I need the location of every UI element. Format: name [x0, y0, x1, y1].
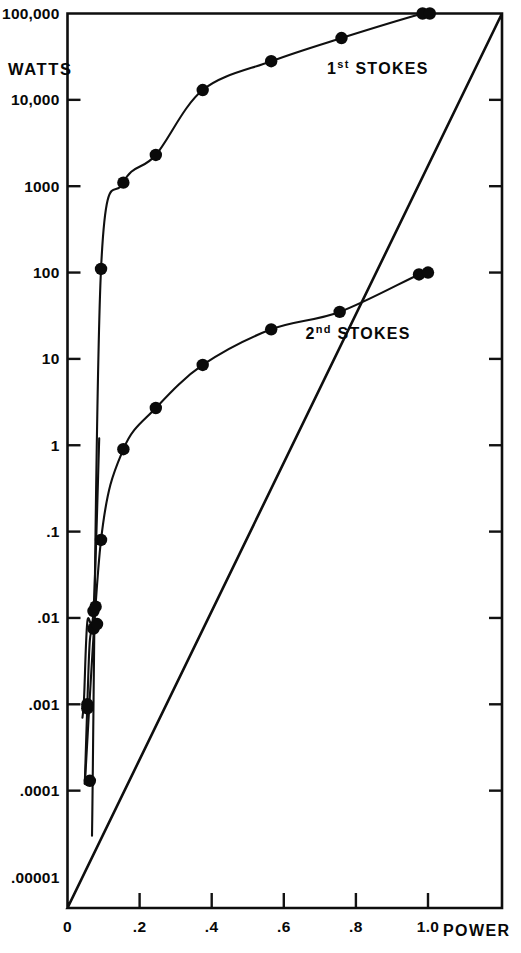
- y-tick-label: 1000: [24, 178, 59, 195]
- y-tick-label: 10,000: [11, 91, 60, 108]
- x-tick-label: .6: [277, 918, 291, 935]
- series-points: [81, 7, 436, 787]
- y-tick-label: 100: [33, 264, 59, 281]
- x-axis-name-label: POWER: [443, 922, 510, 939]
- data-point: [196, 359, 208, 371]
- y-tick-label: .00001: [11, 869, 60, 886]
- data-point: [89, 601, 101, 613]
- y-tick-label: .0001: [20, 782, 60, 799]
- x-tick-label: .8: [349, 918, 363, 935]
- series-label: 2nd STOKES: [305, 323, 410, 342]
- data-point: [196, 84, 208, 96]
- data-point: [424, 7, 436, 19]
- axis-frame-path: [68, 14, 503, 909]
- series-curve: [92, 12, 431, 836]
- data-point: [84, 775, 96, 787]
- x-axis-ticks: [140, 893, 428, 908]
- y-tick-label: .01: [37, 609, 59, 626]
- y-tick-label: 1: [51, 437, 60, 454]
- axis-frame: [68, 14, 503, 909]
- x-tick-label: 0: [63, 918, 72, 935]
- y-tick-label: .001: [29, 696, 60, 713]
- data-point: [91, 618, 103, 630]
- x-tick-label: .4: [205, 918, 219, 935]
- chart-canvas: .00001.0001.001.01.1110100100010,000100,…: [0, 0, 521, 953]
- data-point: [81, 698, 93, 710]
- data-point: [422, 266, 434, 278]
- y-tick-label: .1: [46, 523, 60, 540]
- series-label: 1st STOKES: [327, 58, 429, 77]
- data-point: [265, 323, 277, 335]
- data-point: [150, 402, 162, 414]
- data-point: [265, 55, 277, 67]
- data-point: [95, 534, 107, 546]
- y-axis-ticks: [68, 100, 503, 791]
- series-curves: [82, 12, 431, 836]
- data-point: [117, 443, 129, 455]
- y-tick-label: 100,000: [2, 5, 59, 22]
- y-axis-unit-label: WATTS: [8, 60, 73, 78]
- stokes-power-figure: .00001.0001.001.01.1110100100010,000100,…: [0, 0, 521, 953]
- data-point: [150, 149, 162, 161]
- x-tick-label: .2: [133, 918, 147, 935]
- x-axis-tick-labels: 0.2.4.6.81.0: [63, 918, 439, 935]
- y-tick-label: 10: [42, 350, 60, 367]
- data-point: [117, 176, 129, 188]
- data-point: [333, 306, 345, 318]
- data-point: [95, 263, 107, 275]
- x-tick-label: 1.0: [417, 918, 440, 935]
- y-axis-tick-labels: .00001.0001.001.01.1110100100010,000100,…: [2, 5, 60, 886]
- data-point: [335, 32, 347, 44]
- series-curve: [85, 271, 429, 784]
